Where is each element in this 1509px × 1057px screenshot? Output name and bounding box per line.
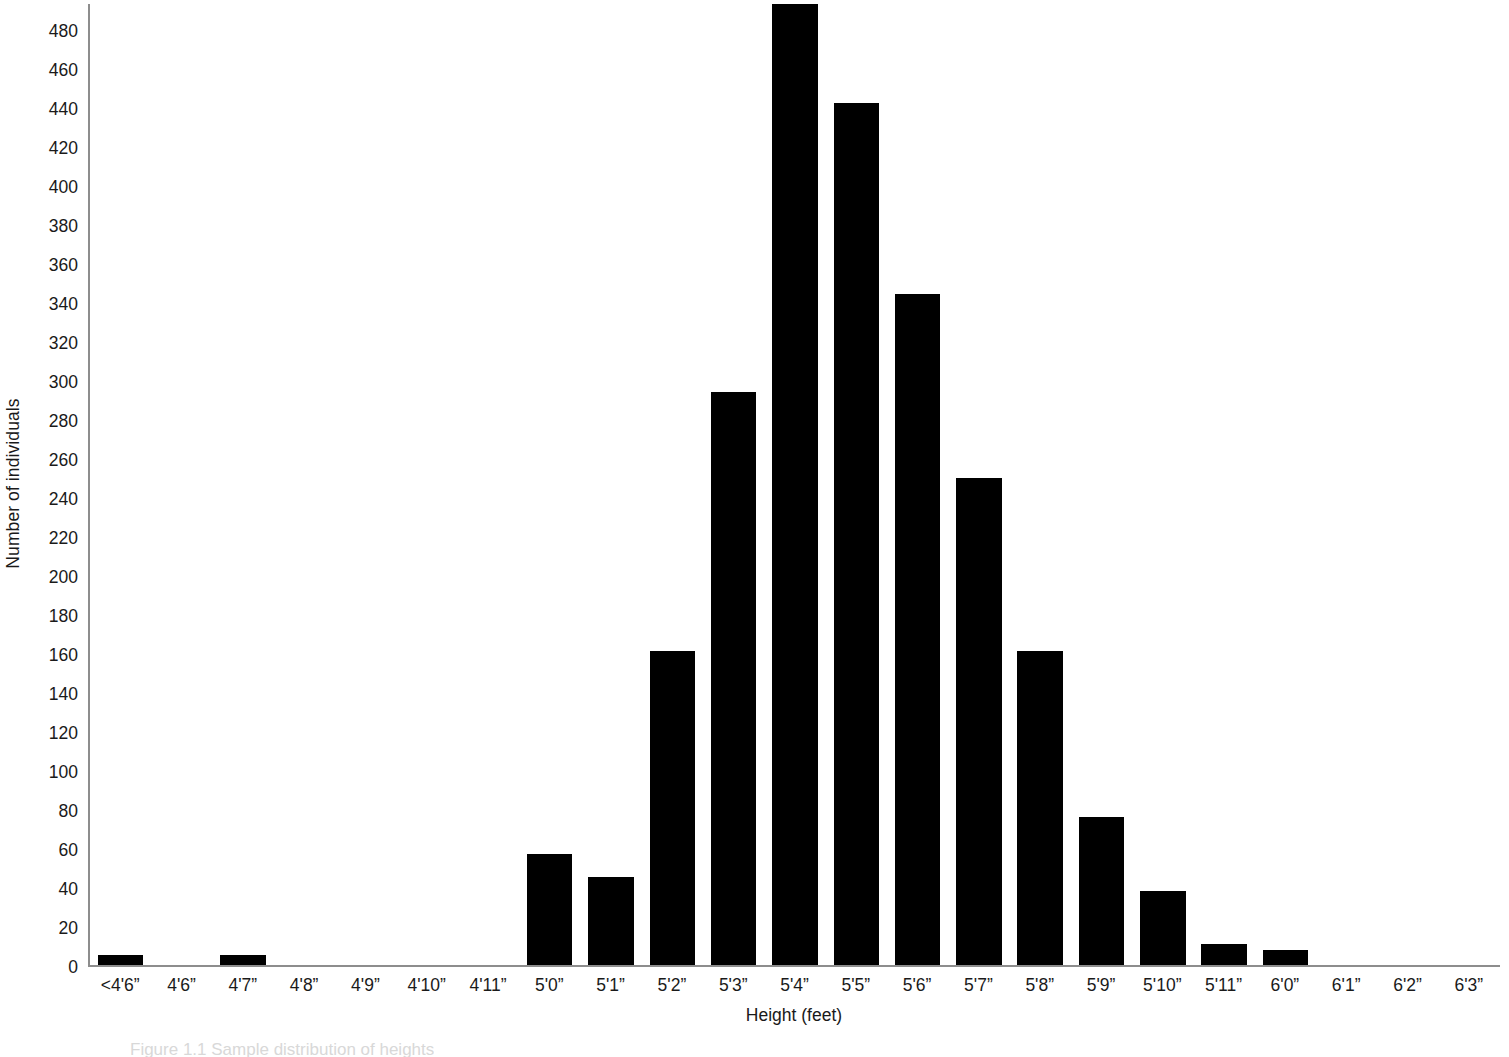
- bar-slot: [1194, 4, 1255, 965]
- bar-slot: [642, 4, 703, 965]
- bar: [220, 955, 265, 965]
- y-axis-tick-labels: 4804604404204003803603403203002802602402…: [26, 0, 86, 1000]
- bar-slot: [90, 4, 151, 965]
- figure-canvas: Number of individuals 480460440420400380…: [0, 0, 1509, 1057]
- x-axis-title-text: Height (feet): [746, 1005, 842, 1025]
- bar-slot: [1132, 4, 1193, 965]
- y-axis-tick-label: 440: [49, 99, 78, 120]
- x-axis-tick-label: 6'3”: [1438, 975, 1499, 996]
- bar-slot: [1071, 4, 1132, 965]
- bar: [588, 877, 633, 965]
- bar: [527, 854, 572, 965]
- bar: [895, 294, 940, 965]
- x-axis-tick-label: 4'11”: [457, 975, 518, 996]
- y-axis-tick-label: 140: [49, 684, 78, 705]
- y-axis-tick-label: 320: [49, 333, 78, 354]
- y-axis-tick-label: 200: [49, 567, 78, 588]
- y-axis-title-text: Number of individuals: [3, 398, 24, 568]
- x-axis-tick-label: <4'6”: [90, 975, 151, 996]
- bar: [1201, 944, 1246, 965]
- bar-slot: [1010, 4, 1071, 965]
- x-axis-tick-label: 5'11”: [1193, 975, 1254, 996]
- y-axis-tick-label: 260: [49, 450, 78, 471]
- y-axis-tick-label: 0: [68, 957, 78, 978]
- bar-slot: [212, 4, 273, 965]
- bar-slot: [335, 4, 396, 965]
- x-axis-line: [88, 965, 1500, 967]
- x-axis-tick-label: 5'10”: [1132, 975, 1193, 996]
- bar-slot: [274, 4, 335, 965]
- plot-inner: [88, 4, 1500, 967]
- bar: [956, 478, 1001, 966]
- x-axis-tick-label: 5'8”: [1009, 975, 1070, 996]
- y-axis-tick-label: 160: [49, 645, 78, 666]
- bar-series: [90, 4, 1500, 965]
- y-axis-tick-label: 340: [49, 294, 78, 315]
- x-axis-tick-label: 4'8”: [273, 975, 334, 996]
- bar: [834, 103, 879, 965]
- x-axis-tick-label: 5'1”: [580, 975, 641, 996]
- x-axis-tick-label: 6'2”: [1377, 975, 1438, 996]
- y-axis-tick-label: 120: [49, 723, 78, 744]
- x-axis-tick-label: 5'3”: [703, 975, 764, 996]
- bar-slot: [1255, 4, 1316, 965]
- x-axis-tick-label: 4'9”: [335, 975, 396, 996]
- bar-slot: [458, 4, 519, 965]
- bar-slot: [519, 4, 580, 965]
- bar-slot: [703, 4, 764, 965]
- x-axis-tick-label: 5'2”: [641, 975, 702, 996]
- y-axis-tick-label: 80: [59, 801, 78, 822]
- bar-slot: [887, 4, 948, 965]
- y-axis-tick-label: 380: [49, 216, 78, 237]
- y-axis-tick-label: 480: [49, 21, 78, 42]
- y-axis-tick-label: 220: [49, 528, 78, 549]
- bar: [650, 651, 695, 965]
- y-axis-tick-label: 40: [59, 879, 78, 900]
- bar-slot: [580, 4, 641, 965]
- plot-area: [88, 4, 1500, 967]
- y-axis-tick-label: 420: [49, 138, 78, 159]
- y-axis-tick-label: 60: [59, 840, 78, 861]
- y-axis-tick-label: 360: [49, 255, 78, 276]
- bar: [1263, 950, 1308, 966]
- x-axis-tick-label: 4'10”: [396, 975, 457, 996]
- x-axis-tick-label: 4'7”: [212, 975, 273, 996]
- x-axis-tick-label: 5'4”: [764, 975, 825, 996]
- bar-slot: [1439, 4, 1500, 965]
- y-axis-tick-label: 300: [49, 372, 78, 393]
- x-axis-tick-label: 5'0”: [519, 975, 580, 996]
- bar-slot: [1316, 4, 1377, 965]
- y-axis-tick-label: 100: [49, 762, 78, 783]
- y-axis-tick-label: 240: [49, 489, 78, 510]
- x-axis-title: Height (feet): [88, 1005, 1500, 1026]
- x-axis-tick-label: 5'6”: [886, 975, 947, 996]
- y-axis-title: Number of individuals: [0, 0, 26, 967]
- bar-slot: [396, 4, 457, 965]
- y-axis-tick-label: 180: [49, 606, 78, 627]
- bar-slot: [151, 4, 212, 965]
- x-axis-tick-label: 5'5”: [825, 975, 886, 996]
- x-axis-tick-label: 6'0”: [1254, 975, 1315, 996]
- bar: [1017, 651, 1062, 965]
- bar: [1140, 891, 1185, 965]
- x-axis-tick-labels: <4'6”4'6”4'7”4'8”4'9”4'10”4'11”5'0”5'1”5…: [90, 975, 1500, 996]
- x-axis-tick-label: 6'1”: [1316, 975, 1377, 996]
- y-axis-tick-label: 20: [59, 918, 78, 939]
- y-axis-tick-label: 400: [49, 177, 78, 198]
- bar-slot: [948, 4, 1009, 965]
- y-axis-tick-label: 460: [49, 60, 78, 81]
- bar: [711, 392, 756, 965]
- bar-slot: [1377, 4, 1438, 965]
- bar: [772, 4, 817, 965]
- bar-slot: [826, 4, 887, 965]
- y-axis-tick-label: 280: [49, 411, 78, 432]
- x-axis-tick-label: 4'6”: [151, 975, 212, 996]
- x-axis-tick-label: 5'9”: [1070, 975, 1131, 996]
- bar-slot: [764, 4, 825, 965]
- figure-caption: Figure 1.1 Sample distribution of height…: [130, 1040, 434, 1057]
- bar: [98, 955, 143, 965]
- x-axis-tick-label: 5'7”: [948, 975, 1009, 996]
- bar: [1079, 817, 1124, 965]
